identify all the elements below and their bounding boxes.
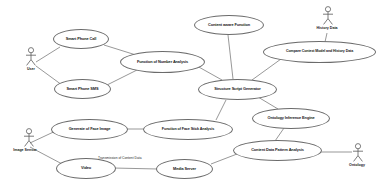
usecase-content-data-pattern-analysis[interactable]: Content Data Pattern Analysis xyxy=(233,140,322,161)
usecase-generate-of-face-image[interactable]: Generate of Face Image xyxy=(51,119,128,140)
use-case-diagram: User Image Sensor History Data xyxy=(0,0,382,190)
actor-image-sensor[interactable]: Image Sensor xyxy=(8,128,42,153)
usecase-ontology-inference-engine[interactable]: Ontology Inference Engine xyxy=(252,108,330,129)
usecase-video[interactable]: Video xyxy=(56,158,116,179)
actor-figure-icon xyxy=(348,143,368,163)
usecase-function-of-face-stick-analysis[interactable]: Function of Face Stick Analysis xyxy=(143,119,233,140)
actor-history-data[interactable]: History Data xyxy=(310,6,344,31)
actor-figure-icon xyxy=(318,6,338,26)
usecase-smart-phone-sms[interactable]: Smart Phone SMS xyxy=(54,79,111,99)
actor-image-sensor-label: Image Sensor xyxy=(13,149,37,153)
usecase-smart-phone-call[interactable]: Smart Phone Call xyxy=(53,29,109,49)
actor-ontology-label: Ontology xyxy=(349,164,365,168)
usecase-compare-context-model-and-history-data[interactable]: Compare Context Model and History Data xyxy=(263,41,376,63)
usecase-structure-script-generator[interactable]: Structure Script Generator xyxy=(198,79,277,100)
edge-label-transmission-of-content-data: Transmission of Content Data xyxy=(98,157,142,160)
actor-history-data-label: History Data xyxy=(316,27,337,31)
actor-figure-icon xyxy=(19,128,39,148)
usecase-media-server[interactable]: Media Server xyxy=(156,159,213,179)
actor-user[interactable]: User xyxy=(14,47,48,72)
actor-ontology[interactable]: Ontology xyxy=(340,143,374,168)
usecase-function-of-number-analysis[interactable]: Function of Number Analysis xyxy=(120,51,205,73)
node-layer: User Image Sensor History Data xyxy=(0,0,382,190)
actor-figure-icon xyxy=(21,47,41,67)
usecase-content-aware-function[interactable]: Content aware Function xyxy=(194,15,264,35)
actor-user-label: User xyxy=(27,68,35,72)
